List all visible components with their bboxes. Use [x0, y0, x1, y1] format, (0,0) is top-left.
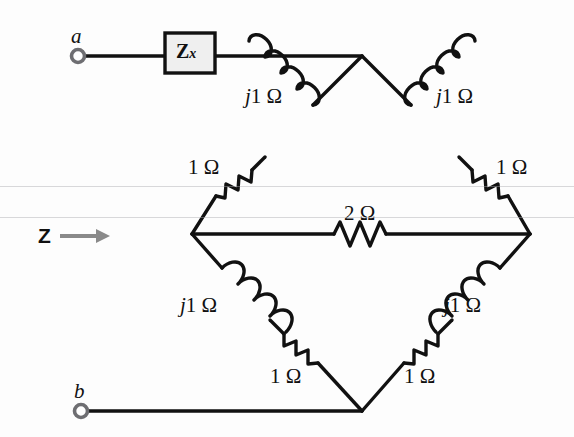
terminal-b-label: b — [74, 381, 85, 402]
component-label-r-top-right: 1 Ω — [496, 157, 527, 178]
wire-l-bottom-left-to-r-bottom-left — [270, 320, 284, 334]
terminal-b-dot — [75, 405, 88, 418]
component-label-r-top-left: 1 Ω — [188, 157, 219, 178]
component-label-r-bridge: 2 Ω — [344, 203, 375, 224]
wire-r-top-left-to-leftmid — [192, 196, 216, 234]
component-label-l-top-right: j1 Ω — [436, 86, 473, 107]
circuit-diagram-figure: a b Z Zx j1 Ω j1 Ω 1 Ω 1 Ω 2 Ω j1 Ω j1 Ω… — [0, 0, 574, 437]
component-label-r-bottom-left: 1 Ω — [270, 366, 301, 387]
wire-r-bottom-left-to-bottomapex — [318, 363, 362, 411]
unknown-impedance-subscript: x — [189, 46, 196, 61]
unknown-impedance-symbol: Z — [176, 40, 189, 62]
wire-l-top-left-to-r-top-left — [252, 157, 265, 170]
resistor-top-left — [216, 170, 252, 198]
resistor-bottom-left — [284, 334, 318, 364]
terminal-a-dot — [72, 50, 85, 63]
resistor-bottom-right — [404, 334, 438, 364]
unknown-impedance-label: Zx — [176, 41, 196, 61]
component-label-l-bottom-right: j1 Ω — [444, 295, 481, 316]
component-label-r-bottom-right: 1 Ω — [404, 366, 435, 387]
terminal-a-label: a — [71, 26, 82, 47]
component-label-l-bottom-left: j1 Ω — [180, 295, 217, 316]
input-impedance-arrow — [60, 229, 110, 243]
wire-r-top-right-to-rightmid — [508, 196, 530, 234]
resistor-bridge — [334, 222, 386, 246]
wire-leftmid-to-l-bottom-left — [192, 234, 222, 268]
wire-r-bottom-right-to-bottomapex — [362, 363, 404, 411]
wire-l-bottom-right-to-r-bottom-right — [438, 320, 452, 334]
input-impedance-label: Z — [38, 225, 51, 246]
inductor-bottom-left — [222, 262, 292, 332]
wire-rightmid-to-l-bottom-right — [500, 234, 530, 268]
wire-l-top-right-to-r-top-right — [459, 157, 472, 170]
component-label-l-top-left: j1 Ω — [245, 86, 282, 107]
